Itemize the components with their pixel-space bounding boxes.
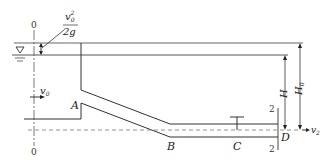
v2-label: v2 <box>311 125 320 136</box>
section-2-top-label: 2 <box>269 104 275 114</box>
v0-label: v0 <box>40 85 50 97</box>
v2-arrow-icon <box>302 128 310 132</box>
svg-text:2g: 2g <box>62 26 76 37</box>
h-label: H <box>278 89 289 99</box>
velocity-head-label: v02 2g <box>62 9 78 37</box>
pipe-flow-diagram: 0 0 v02 2g v0 A B C D 2 2 H <box>0 0 328 160</box>
svg-text:v02: v02 <box>65 9 75 23</box>
water-surface-symbol-icon <box>15 47 25 61</box>
point-b-label: B <box>166 140 175 153</box>
section-0-bottom-label: 0 <box>31 147 37 157</box>
section-2-bottom-label: 2 <box>269 144 275 154</box>
point-d-label: D <box>280 131 290 144</box>
pipe-lower-wall <box>24 103 278 137</box>
section-0-top-label: 0 <box>31 20 37 30</box>
point-a-label: A <box>70 99 79 112</box>
velocity-head-indicator <box>39 30 64 55</box>
point-c-label: C <box>233 140 242 153</box>
h0-label: H0 <box>293 82 305 96</box>
